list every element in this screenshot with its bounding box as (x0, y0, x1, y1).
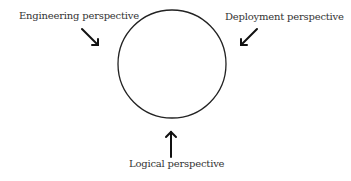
logical-arrow-icon (166, 132, 176, 157)
engineering-perspective-label: Engineering perspective (19, 10, 139, 21)
engineering-arrow-icon (82, 29, 98, 45)
diagram-canvas (0, 0, 351, 181)
deployment-perspective-label: Deployment perspective (225, 11, 344, 22)
deployment-arrow-icon (241, 29, 257, 45)
center-circle (118, 10, 226, 118)
logical-perspective-label: Logical perspective (129, 158, 224, 169)
